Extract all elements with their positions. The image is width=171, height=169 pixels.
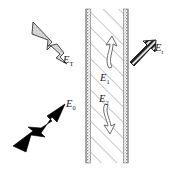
reflected-arrow: [32, 22, 67, 64]
reflected-label: ET: [62, 54, 73, 67]
dielectric-slab: [86, 9, 128, 163]
slab-left-edge: [86, 9, 91, 163]
incident-arrow: [13, 104, 65, 152]
slab-optics-diagram: E0 ET E1 E2 Et: [0, 0, 171, 169]
transmitted-label: Et: [154, 42, 163, 55]
slab-body: [90, 9, 124, 163]
slab-right-edge: [123, 9, 128, 163]
incident-label: E0: [65, 98, 76, 111]
figure-canvas: E0 ET E1 E2 Et: [0, 0, 171, 169]
transmitted-arrow: [130, 40, 156, 66]
